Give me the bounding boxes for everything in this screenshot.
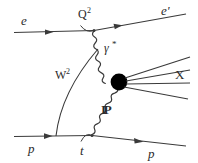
incoming-proton-line — [14, 136, 92, 137]
label-outgoing-proton: p — [147, 146, 155, 161]
hadronic-interaction-blob — [111, 74, 128, 91]
label-q-squared: Q 2 — [78, 6, 91, 21]
outgoing-electron-arrowhead — [114, 24, 123, 30]
incoming-electron-arrowhead — [45, 29, 54, 34]
virtual-photon-propagator — [92, 31, 105, 84]
feynman-diagram-canvas: e e' Q 2 γ * W 2 IP t X p p — [0, 0, 198, 163]
outgoing-electron-line — [94, 14, 186, 31]
jet-line-4 — [124, 87, 188, 99]
label-outgoing-electron: e' — [161, 3, 170, 18]
label-incoming-proton: p — [27, 141, 35, 156]
w-squared-arc — [56, 49, 98, 136]
label-q-squared-exponent: 2 — [87, 6, 91, 15]
feynman-diagram-figure: e e' Q 2 γ * W 2 IP t X p p — [0, 0, 198, 163]
jet-line-3 — [126, 83, 190, 84]
label-gamma: γ — [104, 41, 109, 55]
label-incoming-electron: e — [21, 13, 27, 28]
label-w-squared-exponent: 2 — [66, 67, 70, 76]
label-w-squared: W 2 — [55, 67, 70, 82]
label-virtual-photon: γ * — [104, 39, 117, 55]
label-pomeron: IP — [101, 102, 112, 117]
incoming-proton-arrowhead — [44, 133, 53, 139]
label-q-squared-base: Q — [78, 7, 87, 21]
incoming-electron-line — [14, 31, 94, 33]
label-gamma-star: * — [112, 39, 117, 49]
label-momentum-transfer-t: t — [80, 143, 84, 158]
label-diffractive-system-x: X — [175, 67, 185, 82]
